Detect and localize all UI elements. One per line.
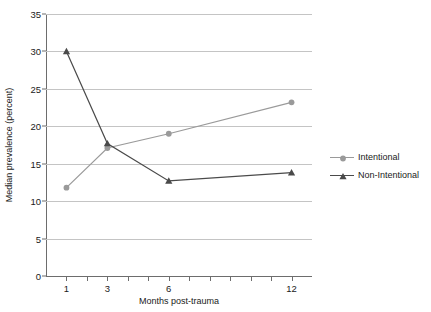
x-axis-tick-label: 1 [64, 283, 69, 294]
x-axis-tick-mark [66, 277, 67, 281]
y-axis-tick-label: 0 [36, 271, 41, 282]
data-point-marker [289, 99, 295, 105]
y-axis-tick-labels: 05101520253035 [18, 0, 46, 290]
x-axis-tick-mark [210, 277, 211, 281]
legend-entry-non-intentional[interactable]: Non-Intentional [330, 166, 431, 184]
triangle-marker-icon [338, 171, 348, 181]
x-axis-tick-label: 3 [105, 283, 110, 294]
y-axis-title-text: Median prevalence (percent) [4, 88, 14, 203]
x-axis-tick-label: 12 [286, 283, 297, 294]
x-axis-tick-mark [169, 277, 170, 281]
line-chart-figure: Median prevalence (percent) 051015202530… [0, 0, 431, 312]
y-axis-tick-label: 10 [30, 196, 41, 207]
series-intentional [64, 99, 295, 190]
y-axis-title: Median prevalence (percent) [0, 0, 18, 290]
x-axis-tick-mark [292, 277, 293, 281]
x-axis-tick-mark [148, 277, 149, 281]
y-axis-tick-label: 5 [36, 233, 41, 244]
legend-label: Non-Intentional [358, 170, 419, 180]
x-axis-tick-mark [230, 277, 231, 281]
x-axis-tick-mark [128, 277, 129, 281]
y-axis-tick-label: 25 [30, 83, 41, 94]
legend-swatch [330, 151, 354, 163]
data-point-marker [104, 140, 111, 146]
x-axis-tick-mark [271, 277, 272, 281]
data-series-layer [46, 14, 312, 276]
x-axis-tick-mark [87, 277, 88, 281]
data-point-marker [166, 131, 172, 137]
data-point-marker [64, 185, 70, 191]
data-point-marker [63, 48, 70, 54]
x-axis-tick-mark [251, 277, 252, 281]
y-axis-tick-label: 20 [30, 121, 41, 132]
y-axis-tick-label: 15 [30, 158, 41, 169]
y-axis-tick-label: 30 [30, 46, 41, 57]
chart-legend: IntentionalNon-Intentional [330, 148, 431, 184]
legend-entry-intentional[interactable]: Intentional [330, 148, 431, 166]
x-axis-tick-mark [107, 277, 108, 281]
plot-area [46, 14, 312, 276]
x-axis-spine [46, 276, 312, 277]
x-axis-tick-label: 6 [166, 283, 171, 294]
series-line [66, 51, 291, 181]
circle-marker-icon [338, 153, 348, 163]
x-axis-title: Months post-trauma [46, 296, 312, 306]
y-axis-tick-label: 35 [30, 9, 41, 20]
legend-swatch [330, 169, 354, 181]
series-non-intentional [63, 48, 295, 184]
legend-label: Intentional [358, 152, 400, 162]
x-axis-tick-mark [189, 277, 190, 281]
